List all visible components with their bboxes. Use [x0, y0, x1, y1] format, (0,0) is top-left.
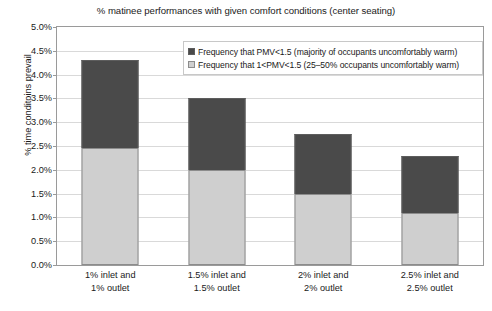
bar-segment-light[interactable]: [295, 194, 352, 265]
legend-item[interactable]: Frequency that PMV<1.5 (majority of occu…: [186, 45, 480, 58]
legend-label: Frequency that PMV<1.5 (majority of occu…: [198, 47, 457, 57]
bar-segment-dark[interactable]: [401, 156, 458, 213]
x-axis-category-line: 2.5% inlet and: [377, 269, 484, 282]
bar-segment-light[interactable]: [82, 148, 139, 265]
bar-segment-dark[interactable]: [82, 60, 139, 148]
x-axis-category-label: 2.5% inlet and2.5% outlet: [377, 269, 484, 294]
bar-segment-light[interactable]: [188, 170, 245, 265]
y-axis-tick-label: 3.5%: [0, 94, 52, 103]
x-axis-category-line: 1% outlet: [57, 282, 164, 295]
bar-segment-dark[interactable]: [295, 134, 352, 194]
bar-stack[interactable]: [401, 156, 458, 265]
y-axis-tick-label: 4.0%: [0, 71, 52, 80]
y-axis-tick-label: 3.0%: [0, 118, 52, 127]
x-axis-category-label: 2% inlet and2% outlet: [270, 269, 377, 294]
x-axis-labels: 1% inlet and1% outlet1.5% inlet and1.5% …: [57, 269, 483, 303]
y-axis-tick-label: 1.5%: [0, 190, 52, 199]
x-axis-category-label: 1.5% inlet and1.5% outlet: [164, 269, 271, 294]
bar-stack[interactable]: [295, 134, 352, 265]
legend-swatch-light-icon: [188, 61, 195, 68]
chart-container: % matinee performances with given comfor…: [0, 0, 492, 311]
y-axis-tick-label: 4.5%: [0, 47, 52, 56]
y-axis-tick-label: 5.0%: [0, 23, 52, 32]
bar-stack[interactable]: [188, 98, 245, 265]
legend-label: Frequency that 1<PMV<1.5 (25–50% occupan…: [198, 60, 459, 70]
x-axis-category-line: 2.5% outlet: [377, 282, 484, 295]
bar-segment-light[interactable]: [401, 213, 458, 265]
legend-item[interactable]: Frequency that 1<PMV<1.5 (25–50% occupan…: [186, 58, 480, 71]
y-axis-tick-label: 2.0%: [0, 166, 52, 175]
x-axis-category-line: 2% inlet and: [270, 269, 377, 282]
y-axis-tick-label: 2.5%: [0, 142, 52, 151]
legend-swatch-dark-icon: [188, 48, 195, 55]
y-axis-tick-label: 1.0%: [0, 213, 52, 222]
y-axis-tick-label: 0.5%: [0, 237, 52, 246]
x-axis-category-line: 2% outlet: [270, 282, 377, 295]
x-axis-category-line: 1.5% outlet: [164, 282, 271, 295]
bar-group: [57, 27, 164, 265]
bar-stack[interactable]: [82, 60, 139, 265]
x-axis-category-label: 1% inlet and1% outlet: [57, 269, 164, 294]
chart-title: % matinee performances with given comfor…: [0, 5, 492, 16]
y-axis-tick-label: 0.0%: [0, 261, 52, 270]
x-axis-category-line: 1.5% inlet and: [164, 269, 271, 282]
chart-legend: Frequency that PMV<1.5 (majority of occu…: [183, 41, 483, 75]
x-axis-category-line: 1% inlet and: [57, 269, 164, 282]
bar-segment-dark[interactable]: [188, 98, 245, 169]
